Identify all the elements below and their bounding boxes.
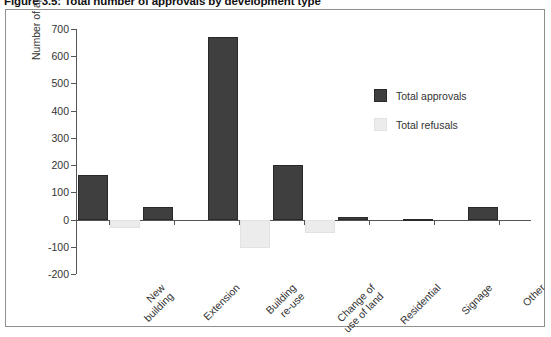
- legend-item: Total refusals: [374, 118, 467, 131]
- x-axis-category-label: Signage: [459, 282, 494, 317]
- legend-item: Total approvals: [374, 89, 467, 102]
- x-axis-category-label: Residential: [398, 282, 443, 327]
- legend-label: Total approvals: [396, 90, 467, 102]
- bar-total-approvals: [78, 175, 108, 220]
- y-axis-tick-label: 600: [51, 50, 69, 62]
- x-axis-category-label: Change ofuse of land: [333, 282, 386, 335]
- y-axis-line: [76, 29, 77, 274]
- bar-total-approvals: [273, 165, 303, 219]
- legend-label: Total refusals: [396, 119, 458, 131]
- plot-area: 7006005004003002001000-100-200 Newbuildi…: [76, 29, 531, 274]
- y-axis-tick: [71, 138, 76, 139]
- figure-caption: Figure 3.5: Total number of approvals by…: [4, 0, 321, 7]
- y-axis-tick-label: -100: [48, 241, 69, 253]
- chart-frame: Number of applications 70060050040030020…: [5, 9, 545, 327]
- bar-total-approvals: [403, 219, 433, 221]
- y-axis-tick-label: 400: [51, 105, 69, 117]
- bar-total-approvals: [143, 207, 173, 219]
- y-axis-tick: [71, 247, 76, 248]
- y-axis-tick-label: 500: [51, 77, 69, 89]
- y-axis-tick-label: 300: [51, 132, 69, 144]
- bar-total-refusals: [240, 220, 270, 249]
- bar-total-approvals: [208, 37, 238, 219]
- x-axis-tick: [174, 220, 175, 225]
- x-axis-tick: [434, 220, 435, 225]
- bar-total-refusals: [110, 220, 140, 228]
- y-axis-tick: [71, 29, 76, 30]
- y-axis-title: Number of applications: [30, 0, 42, 60]
- x-axis-category-label: Other: [520, 282, 547, 309]
- y-axis-tick: [71, 274, 76, 275]
- y-axis-tick-label: 200: [51, 159, 69, 171]
- bar-total-approvals: [468, 207, 498, 219]
- y-axis-tick: [71, 56, 76, 57]
- x-axis-category-label: Buildingre-use: [263, 282, 306, 325]
- legend-swatch-refusals: [374, 118, 387, 131]
- y-axis-tick: [71, 165, 76, 166]
- y-axis-tick: [71, 192, 76, 193]
- x-axis-tick: [369, 220, 370, 225]
- y-axis-tick: [71, 83, 76, 84]
- y-axis-tick: [71, 111, 76, 112]
- y-axis-tick-label: 100: [51, 186, 69, 198]
- y-axis-tick-label: 700: [51, 23, 69, 35]
- y-axis-tick-label: -200: [48, 268, 69, 280]
- bar-total-approvals: [338, 217, 368, 220]
- y-axis-tick-label: 0: [63, 214, 69, 226]
- x-axis-tick: [499, 220, 500, 225]
- x-axis-category-label: Extension: [201, 282, 242, 323]
- bar-total-refusals: [305, 220, 335, 234]
- x-axis-category-label: Newbuilding: [133, 282, 175, 324]
- legend-swatch-approvals: [374, 89, 387, 102]
- chart-legend: Total approvalsTotal refusals: [374, 89, 467, 147]
